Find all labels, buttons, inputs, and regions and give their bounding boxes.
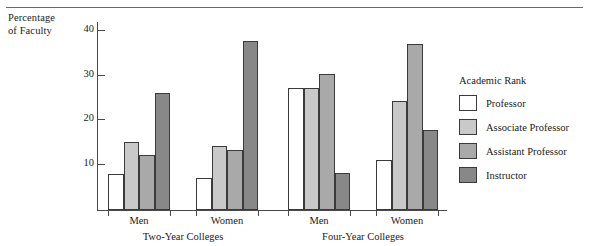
y-tick-20: 20: [98, 119, 105, 120]
y-axis-title-line-2: of Faculty: [8, 25, 74, 38]
legend-items: ProfessorAssociate ProfessorAssistant Pr…: [459, 91, 587, 187]
bar: [196, 178, 212, 210]
x-group-label: Men: [99, 215, 179, 226]
y-axis-title: Percentage of Faculty: [8, 12, 74, 37]
legend-swatch: [459, 167, 477, 183]
x-section-label: Two-Year Colleges: [113, 231, 253, 242]
bar: [304, 88, 320, 210]
y-tick-40: 40: [98, 30, 105, 31]
bar: [155, 93, 171, 210]
bar: [139, 155, 155, 210]
bar: [407, 44, 423, 210]
x-axis-line: [97, 210, 447, 211]
legend-swatch: [459, 95, 477, 111]
x-group-label: Men: [279, 215, 359, 226]
legend-item: Assistant Professor: [459, 139, 587, 163]
x-section-label: Four-Year Colleges: [293, 231, 433, 242]
x-group-label: Women: [367, 215, 447, 226]
legend-item: Professor: [459, 91, 587, 115]
x-group-label: Women: [187, 215, 267, 226]
bar: [243, 41, 259, 210]
bar: [212, 146, 228, 210]
bar: [227, 150, 243, 210]
bar: [319, 74, 335, 210]
legend-swatch: [459, 119, 477, 135]
top-rule-divider: [6, 7, 583, 8]
bar: [392, 101, 408, 210]
bar: [376, 160, 392, 210]
y-axis-title-line-1: Percentage: [8, 12, 74, 25]
bar: [124, 142, 140, 210]
legend-label: Instructor: [486, 170, 527, 181]
bar: [288, 88, 304, 210]
legend-item: Instructor: [459, 163, 587, 187]
bar: [335, 173, 351, 210]
legend-item: Associate Professor: [459, 115, 587, 139]
legend-label: Assistant Professor: [486, 146, 567, 157]
y-tick-label-10: 10: [84, 157, 95, 168]
legend: Academic Rank ProfessorAssociate Profess…: [459, 75, 587, 187]
legend-swatch: [459, 143, 477, 159]
plot-area: 10203040: [97, 22, 447, 211]
y-tick-label-30: 30: [84, 68, 95, 79]
y-tick-label-20: 20: [84, 112, 95, 123]
bar: [108, 174, 124, 210]
legend-title: Academic Rank: [459, 75, 587, 86]
legend-label: Professor: [486, 98, 526, 109]
y-tick-label-40: 40: [84, 23, 95, 34]
bar: [423, 130, 439, 210]
y-tick-30: 30: [98, 75, 105, 76]
y-axis-line: [97, 22, 98, 211]
y-tick-10: 10: [98, 164, 105, 165]
bar-chart-figure: Percentage of Faculty 10203040 MenWomenM…: [0, 0, 589, 246]
legend-label: Associate Professor: [486, 122, 569, 133]
